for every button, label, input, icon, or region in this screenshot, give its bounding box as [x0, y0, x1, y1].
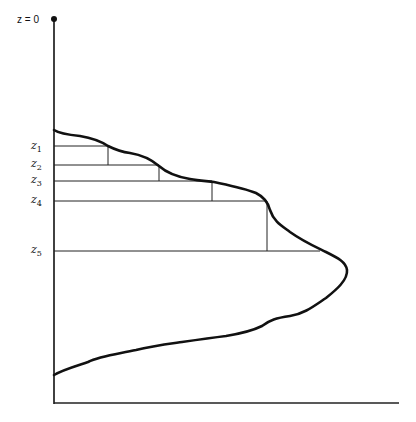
level-labels: z1 z2 z3 z4 z5 — [30, 139, 42, 258]
label-z1: z1 — [30, 139, 42, 154]
level-lines — [54, 146, 320, 251]
vertical-drops — [108, 146, 267, 251]
label-z5: z5 — [30, 243, 42, 258]
label-z3: z3 — [30, 173, 42, 188]
profile-diagram: z = 0 z1 z2 z3 z4 z5 — [0, 0, 416, 422]
label-z2: z2 — [30, 157, 42, 172]
label-z4: z4 — [30, 193, 42, 208]
origin-label: z = 0 — [17, 14, 39, 25]
profile-curve — [54, 130, 347, 375]
